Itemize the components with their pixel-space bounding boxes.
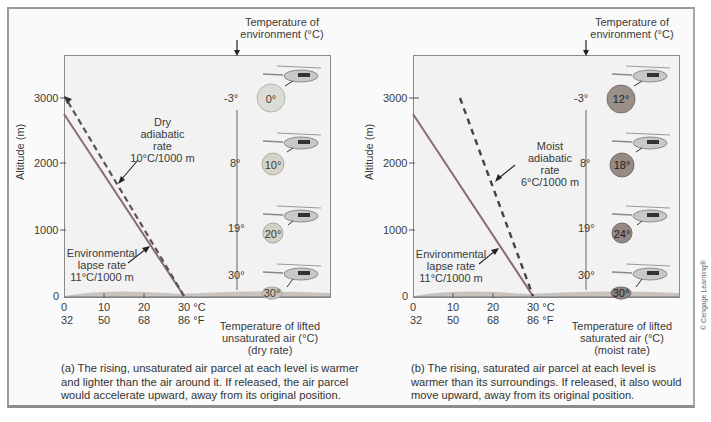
rate-label-line: adiabatic — [120, 128, 205, 140]
rate-label-line: Dry — [120, 116, 205, 128]
parcel-label-line: Temperature of lifted — [562, 320, 682, 332]
y-tick-label: 1000 — [34, 224, 58, 236]
parcel-temp-label: Temperature of lifted unsaturated air (°… — [210, 320, 330, 356]
moist-adiabatic-label: Moist adiabatic rate 6°C/1000 m — [510, 140, 590, 188]
y-tick-label: 1000 — [383, 224, 407, 236]
environmental-lapse-label: Environmental lapse rate 11°C/1000 m — [411, 248, 491, 284]
parcel-label-line: (moist rate) — [562, 344, 682, 356]
y-tick-label: 3000 — [383, 92, 407, 104]
pointer-arrow-icon — [142, 246, 150, 253]
helicopter-icon — [612, 133, 670, 152]
parcel-label-line: saturated air (°C) — [562, 332, 682, 344]
caption-line: (b) The rising, saturated air parcel at … — [411, 362, 682, 376]
caption-line: and lighter than the air around it. If r… — [61, 376, 359, 390]
parcel-temp-value: 30° — [608, 287, 634, 299]
dry-adiabatic-label: Dry adiabatic rate 10°C/1000 m — [120, 116, 205, 164]
x-tick-label-f: 68 — [138, 314, 150, 326]
parcel-temp-value: 10° — [260, 159, 286, 171]
helicopter-icon — [612, 66, 670, 86]
x-tick-label-f: 86 °F — [178, 314, 204, 326]
caption-line: move upward, away from its original posi… — [411, 389, 682, 403]
rate-label-line: rate — [120, 140, 205, 152]
helicopter-icon — [263, 66, 321, 86]
dashed-arrow-head-icon — [64, 96, 72, 104]
y-axis-label: Altitude (m) — [14, 100, 26, 180]
caption-line: (a) The rising, unsaturated air parcel a… — [61, 362, 359, 376]
rate-label-line: adiabatic — [510, 152, 590, 164]
env-temp-value: -3° — [224, 92, 238, 104]
ground — [65, 291, 330, 297]
copyright-notice: © Cengage Learning® — [700, 260, 707, 330]
x-tick-label-c: 30 °C — [527, 301, 555, 313]
env-rate-label-line: Environmental — [411, 248, 491, 260]
env-temp-value: 30° — [228, 269, 245, 281]
helicopter-icon — [612, 206, 670, 225]
y-tick-label: 0 — [53, 290, 59, 302]
x-tick-label-c: 0 — [61, 301, 67, 313]
x-tick-label-f: 50 — [447, 314, 459, 326]
parcel-temp-value: 18° — [609, 159, 635, 171]
x-tick-label-c: 0 — [410, 301, 416, 313]
parcel-temp-value: 30° — [259, 287, 285, 299]
parcel-temp-value: 20° — [260, 228, 286, 240]
parcel-label-line: (dry rate) — [210, 344, 330, 356]
helicopter-icon — [263, 264, 321, 287]
parcel-temp-label: Temperature of lifted saturated air (°C)… — [562, 320, 682, 356]
env-arrow-head-icon — [234, 50, 240, 56]
env-temp-value: 30° — [578, 269, 595, 281]
caption-b: (b) The rising, saturated air parcel at … — [411, 362, 682, 403]
rate-label-line: 6°C/1000 m — [510, 176, 590, 188]
x-tick-label-f: 68 — [487, 314, 499, 326]
y-tick-label: 3000 — [34, 92, 58, 104]
x-tick-label-c: 10 — [98, 301, 110, 313]
x-tick-label-f: 86 °F — [527, 314, 553, 326]
environmental-lapse-label: Environmental lapse rate 11°C/1000 m — [62, 247, 142, 283]
env-rate-label-line: lapse rate — [62, 259, 142, 271]
env-arrow-head-icon — [583, 50, 589, 56]
rate-label-line: 10°C/1000 m — [120, 152, 205, 164]
env-temp-value: 8° — [580, 157, 591, 169]
helicopter-icon — [612, 264, 670, 287]
pointer-arrow-icon — [495, 174, 502, 182]
parcel-temp-value: 24° — [609, 228, 635, 240]
x-tick-label-c: 30 °C — [178, 301, 206, 313]
env-temp-value: 19° — [578, 222, 595, 234]
x-tick-label-c: 20 — [487, 301, 499, 313]
y-axis-label: Altitude (m) — [363, 100, 375, 180]
parcel-temp-value: 12° — [608, 93, 634, 105]
x-tick-label-c: 20 — [138, 301, 150, 313]
env-rate-label-line: lapse rate — [411, 260, 491, 272]
rate-label-line: Moist — [510, 140, 590, 152]
env-rate-label-line: Environmental — [62, 247, 142, 259]
x-tick-label-f: 50 — [98, 314, 110, 326]
env-temp-value: 8° — [230, 157, 241, 169]
caption-a: (a) The rising, unsaturated air parcel a… — [61, 362, 359, 403]
x-tick-label-f: 32 — [410, 314, 422, 326]
env-temp-value: 19° — [228, 222, 245, 234]
parcel-label-line: unsaturated air (°C) — [210, 332, 330, 344]
helicopter-icon — [263, 206, 321, 225]
y-tick-label: 2000 — [34, 157, 58, 169]
caption-line: would accelerate upward, away from its o… — [61, 389, 359, 403]
x-tick-label-f: 32 — [61, 314, 73, 326]
env-rate-label-line: 11°C/1000 m — [62, 271, 142, 283]
caption-line: warmer than its surroundings. If release… — [411, 376, 682, 390]
env-rate-label-line: 11°C/1000 m — [411, 272, 491, 284]
helicopter-icon — [263, 133, 321, 152]
env-temp-value: -3° — [574, 92, 588, 104]
y-tick-label: 2000 — [383, 157, 407, 169]
x-tick-label-c: 10 — [447, 301, 459, 313]
parcel-label-line: Temperature of lifted — [210, 320, 330, 332]
rate-label-line: rate — [510, 164, 590, 176]
parcel-temp-value: 0° — [258, 93, 284, 105]
ground — [414, 291, 679, 297]
y-tick-label: 0 — [402, 290, 408, 302]
